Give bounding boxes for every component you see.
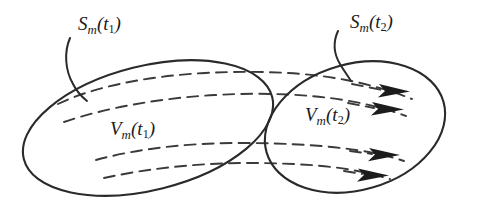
label-surface-t2-symbol: S <box>350 11 360 32</box>
figure-container: Sm(t1) Sm(t2) Vm(t1) Vm(t2) <box>0 0 481 201</box>
arrow-stubs-group <box>344 84 382 174</box>
label-volume-t1-subscript: m <box>122 127 131 142</box>
label-volume-t2: Vm(t2) <box>305 105 350 128</box>
label-volume-t2-close-paren: ) <box>344 104 350 125</box>
flow-arrowhead-2 <box>371 102 404 116</box>
label-surface-t2: Sm(t2) <box>350 12 393 35</box>
pathline-1 <box>58 72 412 104</box>
flow-arrowhead-3 <box>368 148 400 161</box>
arrowheads-group <box>357 84 410 182</box>
label-volume-t1-symbol: V <box>110 118 122 139</box>
label-volume-t2-subscript: m <box>317 113 326 128</box>
leader-line-surface-t1 <box>66 38 87 101</box>
label-surface-t1-subscript: m <box>88 22 97 37</box>
label-surface-t1: Sm(t1) <box>78 14 121 37</box>
label-surface-t2-subscript: m <box>360 20 369 35</box>
label-volume-t1: Vm(t1) <box>110 119 155 142</box>
leader-line-surface-t2 <box>335 31 351 81</box>
label-volume-t1-close-paren: ) <box>149 118 155 139</box>
flow-arrowhead-4 <box>357 169 389 182</box>
label-surface-t1-close-paren: ) <box>115 13 121 34</box>
diagram-canvas <box>0 0 481 201</box>
label-surface-t1-symbol: S <box>78 13 88 34</box>
label-surface-t2-close-paren: ) <box>387 11 393 32</box>
label-volume-t2-symbol: V <box>305 104 317 125</box>
material-volume-ellipse-t2 <box>249 41 461 201</box>
